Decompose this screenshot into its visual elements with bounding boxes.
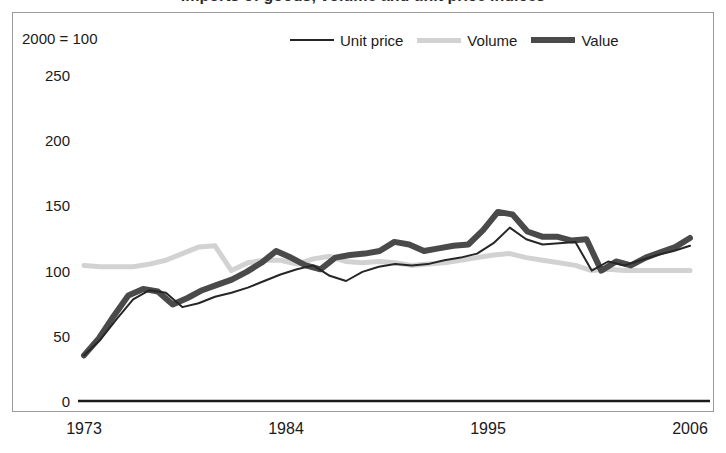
legend-item-value: Value: [531, 32, 618, 49]
y-tick-label: 200: [10, 132, 70, 149]
legend-item-volume: Volume: [417, 32, 517, 49]
legend-label-value: Value: [581, 32, 618, 49]
legend-item-unit-price: Unit price: [290, 32, 403, 49]
chart-title-clipped: Imports of goods, volume and unit price …: [0, 0, 726, 7]
legend-swatch-volume: [417, 38, 461, 43]
legend-swatch-value: [531, 37, 575, 43]
y-tick-label: 100: [10, 262, 70, 279]
legend-label-volume: Volume: [467, 32, 517, 49]
x-axis-tick-labels: 1973198419952006: [0, 420, 726, 448]
y-tick-label: 50: [10, 327, 70, 344]
x-tick-label: 2006: [650, 420, 726, 438]
x-tick-label: 1984: [246, 420, 326, 438]
y-axis-tick-labels: 050100150200250: [10, 0, 70, 453]
chart-figure: Imports of goods, volume and unit price …: [0, 0, 726, 453]
legend-label-unit-price: Unit price: [340, 32, 403, 49]
legend-swatch-unit-price: [290, 39, 334, 41]
x-tick-label: 1973: [44, 420, 124, 438]
x-tick-label: 1995: [448, 420, 528, 438]
y-tick-label: 250: [10, 67, 70, 84]
y-tick-label: 150: [10, 197, 70, 214]
y-tick-label: 0: [10, 393, 70, 410]
plot-frame: [12, 12, 714, 412]
chart-legend: Unit price Volume Value: [290, 28, 710, 52]
